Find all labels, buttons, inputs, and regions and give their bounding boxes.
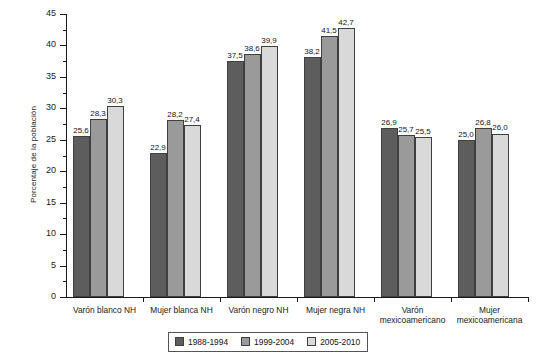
bar xyxy=(90,119,107,297)
y-axis-tick-major: 0 xyxy=(60,297,66,298)
y-axis-tick-label: 40 xyxy=(30,39,56,50)
bar xyxy=(261,46,278,297)
x-axis-group-tick xyxy=(528,297,529,302)
figure-caption xyxy=(2,356,536,364)
x-axis-group-tick xyxy=(374,297,375,302)
x-axis-category-label: Mujermexicoamericana xyxy=(445,305,535,325)
bar xyxy=(107,106,124,297)
y-axis-tick-minor xyxy=(63,281,66,282)
y-axis-tick-major: 20 xyxy=(60,171,66,172)
x-axis-category-line: Mujer xyxy=(445,305,535,315)
bar xyxy=(321,36,338,297)
y-axis-tick-minor xyxy=(63,61,66,62)
legend-item[interactable]: 2005-2010 xyxy=(307,337,360,347)
bar xyxy=(184,125,201,297)
y-axis-tick-label: 25 xyxy=(30,134,56,145)
legend-swatch-icon xyxy=(307,337,316,346)
legend-item[interactable]: 1999-2004 xyxy=(241,337,294,347)
bar-value-label: 30,3 xyxy=(104,96,126,105)
bar xyxy=(475,128,492,297)
bar-value-label: 39,9 xyxy=(258,36,280,45)
bar-value-label: 42,7 xyxy=(335,18,357,27)
bar xyxy=(304,57,321,297)
bar xyxy=(492,134,509,298)
x-axis-group-tick xyxy=(451,297,452,302)
x-axis-group-tick xyxy=(143,297,144,302)
bar-value-label: 26,0 xyxy=(489,123,511,132)
legend-label: 2005-2010 xyxy=(320,337,360,347)
bar-value-label: 25,0 xyxy=(455,130,477,139)
y-axis-tick-label: 30 xyxy=(30,102,56,113)
y-axis-tick-minor xyxy=(63,250,66,251)
legend-swatch-icon xyxy=(175,337,184,346)
y-axis-tick-major: 30 xyxy=(60,108,66,109)
bar xyxy=(227,61,244,297)
legend-swatch-icon xyxy=(241,337,250,346)
bar xyxy=(381,128,398,297)
y-axis-tick-label: 20 xyxy=(30,165,56,176)
bar-value-label: 28,3 xyxy=(87,109,109,118)
bar xyxy=(338,28,355,297)
bar-value-label: 38,6 xyxy=(241,44,263,53)
bar-value-label: 25,6 xyxy=(70,126,92,135)
y-axis-tick-label: 15 xyxy=(30,197,56,208)
y-axis-tick-minor xyxy=(63,187,66,188)
y-axis-tick-minor xyxy=(63,156,66,157)
y-axis-tick-minor xyxy=(63,30,66,31)
y-axis-tick-label: 10 xyxy=(30,228,56,239)
y-axis-tick-minor xyxy=(63,124,66,125)
y-axis-tick-minor xyxy=(63,218,66,219)
bar xyxy=(398,135,415,297)
bar-value-label: 22,9 xyxy=(147,143,169,152)
y-axis-tick-minor xyxy=(63,93,66,94)
y-axis-tick-major: 5 xyxy=(60,266,66,267)
bar-value-label: 38,2 xyxy=(301,47,323,56)
bar-chart: Porcentaje de la población 0510152025303… xyxy=(0,0,538,364)
bar xyxy=(167,120,184,297)
y-axis-tick-major: 10 xyxy=(60,234,66,235)
y-axis-tick-label: 45 xyxy=(30,8,56,19)
bar xyxy=(150,153,167,297)
plot-area: 05101520253035404525,628,330,3Varón blan… xyxy=(66,14,528,297)
legend: 1988-19941999-20042005-2010 xyxy=(168,332,368,352)
legend-item[interactable]: 1988-1994 xyxy=(175,337,228,347)
bar xyxy=(244,54,261,297)
x-axis-group-tick xyxy=(220,297,221,302)
x-axis-group-tick xyxy=(297,297,298,302)
y-axis-title: Porcentaje de la población xyxy=(29,65,38,245)
y-axis-tick-major: 35 xyxy=(60,77,66,78)
x-axis-category-line: mexicoamericana xyxy=(445,315,535,325)
bar xyxy=(415,137,432,297)
bar-value-label: 27,4 xyxy=(181,115,203,124)
y-axis-tick-major: 40 xyxy=(60,45,66,46)
bar xyxy=(458,140,475,297)
legend-label: 1999-2004 xyxy=(254,337,294,347)
y-axis-tick-label: 0 xyxy=(30,291,56,302)
y-axis-tick-label: 5 xyxy=(30,260,56,271)
legend-label: 1988-1994 xyxy=(188,337,228,347)
y-axis-line xyxy=(66,14,67,297)
y-axis-tick-major: 45 xyxy=(60,14,66,15)
bar-value-label: 25,5 xyxy=(412,127,434,136)
bar xyxy=(73,136,90,297)
y-axis-tick-major: 15 xyxy=(60,203,66,204)
y-axis-tick-label: 35 xyxy=(30,71,56,82)
y-axis-tick-major: 25 xyxy=(60,140,66,141)
